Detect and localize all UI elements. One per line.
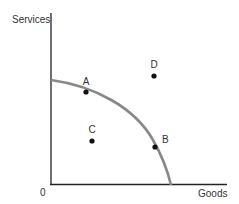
point-c: C [88,124,95,144]
point-d: D [150,59,157,79]
origin-label: 0 [40,187,46,198]
point-marker [152,144,157,149]
ppf-diagram: ABCD Services 0 Goods [0,0,239,204]
point-marker [151,73,156,78]
production-possibilities-curve [51,80,171,185]
point-label: B [162,134,169,145]
point-a: A [83,76,90,95]
point-marker [89,138,94,143]
x-axis-label: Goods [198,188,227,199]
point-label: C [88,124,95,135]
points-layer: ABCD [83,59,169,150]
point-marker [83,89,88,94]
y-axis-label: Services [12,14,50,25]
point-label: D [150,59,157,70]
point-label: A [83,76,90,87]
